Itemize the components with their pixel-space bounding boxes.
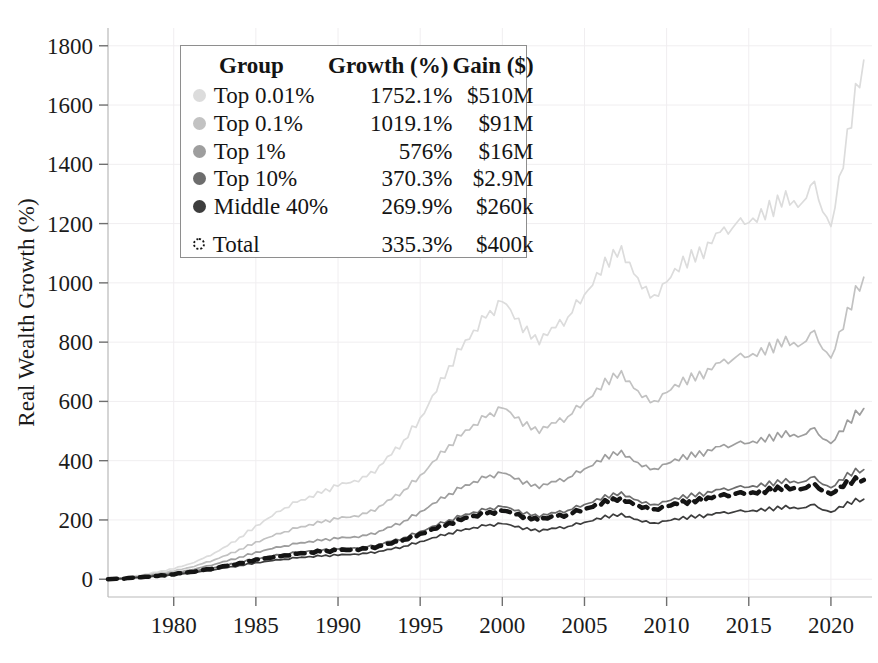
wealth-growth-chart: 0200400600800100012001400160018001980198… bbox=[0, 0, 878, 663]
x-tick-label: 2020 bbox=[808, 613, 854, 638]
x-tick-label: 2005 bbox=[561, 613, 607, 638]
legend-group-cell: Top 0.1% bbox=[193, 110, 328, 138]
legend-row: Top 0.01%1752.1%$510M bbox=[193, 82, 534, 110]
legend-panel: Group Growth (%) Gain ($) Top 0.01%1752.… bbox=[180, 45, 527, 258]
legend-marker-dot-icon bbox=[193, 200, 206, 213]
legend-growth-value: 269.9% bbox=[328, 193, 452, 221]
legend-group-label: Top 0.01% bbox=[212, 83, 315, 108]
legend-group-label: Total bbox=[211, 232, 260, 257]
legend-group-cell: Top 1% bbox=[193, 138, 328, 166]
legend-growth-value: 1752.1% bbox=[328, 82, 452, 110]
legend-growth-value: 335.3% bbox=[328, 221, 452, 259]
legend-group-cell: Total bbox=[193, 221, 328, 259]
x-tick-label: 2015 bbox=[726, 613, 772, 638]
legend-table: Group Growth (%) Gain ($) Top 0.01%1752.… bbox=[193, 53, 534, 259]
legend-row: Top 0.1%1019.1%$91M bbox=[193, 110, 534, 138]
y-tick-label: 1800 bbox=[47, 34, 93, 59]
legend-growth-value: 576% bbox=[328, 138, 452, 166]
y-tick-label: 400 bbox=[59, 449, 94, 474]
legend-group-cell: Top 0.01% bbox=[193, 82, 328, 110]
legend-group-label: Top 0.1% bbox=[212, 111, 303, 136]
y-tick-label: 1600 bbox=[47, 93, 93, 118]
legend-marker-dashed-circle-icon bbox=[193, 238, 205, 250]
y-axis-title: Real Wealth Growth (%) bbox=[14, 198, 39, 426]
legend-marker-dot-icon bbox=[193, 117, 206, 130]
x-tick-label: 1990 bbox=[315, 613, 361, 638]
y-tick-label: 600 bbox=[59, 389, 94, 414]
x-tick-label: 1980 bbox=[151, 613, 197, 638]
legend-header-group: Group bbox=[193, 53, 328, 82]
legend-group-cell: Top 10% bbox=[193, 165, 328, 193]
legend-header-row: Group Growth (%) Gain ($) bbox=[193, 53, 534, 82]
legend-group-cell: Middle 40% bbox=[193, 193, 328, 221]
legend-gain-value: $260k bbox=[452, 193, 533, 221]
y-tick-label: 200 bbox=[59, 508, 94, 533]
legend-row: Total335.3%$400k bbox=[193, 221, 534, 259]
legend-marker-dot-icon bbox=[193, 89, 206, 102]
legend-group-label: Top 10% bbox=[212, 166, 297, 191]
y-tick-label: 1400 bbox=[47, 152, 93, 177]
y-tick-label: 800 bbox=[59, 330, 94, 355]
legend-group-label: Middle 40% bbox=[212, 194, 328, 219]
y-tick-label: 1000 bbox=[47, 271, 93, 296]
legend-group-label: Top 1% bbox=[212, 139, 286, 164]
y-tick-label: 0 bbox=[82, 567, 94, 592]
legend-header-growth: Growth (%) bbox=[328, 53, 452, 82]
legend-header-gain: Gain ($) bbox=[452, 53, 533, 82]
legend-growth-value: 1019.1% bbox=[328, 110, 452, 138]
legend-gain-value: $510M bbox=[452, 82, 533, 110]
legend-row: Middle 40%269.9%$260k bbox=[193, 193, 534, 221]
legend-marker-dot-icon bbox=[193, 172, 206, 185]
x-tick-label: 2010 bbox=[644, 613, 690, 638]
x-tick-label: 1995 bbox=[397, 613, 443, 638]
legend-row: Top 10%370.3%$2.9M bbox=[193, 165, 534, 193]
legend-row: Top 1%576%$16M bbox=[193, 138, 534, 166]
x-tick-label: 1985 bbox=[233, 613, 279, 638]
legend-gain-value: $91M bbox=[452, 110, 533, 138]
legend-growth-value: 370.3% bbox=[328, 165, 452, 193]
legend-gain-value: $16M bbox=[452, 138, 533, 166]
y-tick-label: 1200 bbox=[47, 212, 93, 237]
x-tick-label: 2000 bbox=[479, 613, 525, 638]
legend-marker-dot-icon bbox=[193, 145, 206, 158]
legend-gain-value: $400k bbox=[452, 221, 533, 259]
series-line-total bbox=[108, 477, 864, 579]
legend-gain-value: $2.9M bbox=[452, 165, 533, 193]
series-line-top-0-1 bbox=[108, 277, 864, 579]
